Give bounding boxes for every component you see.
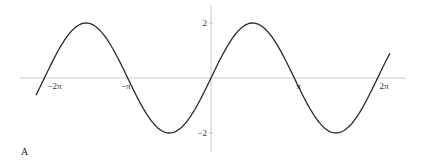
- sine-chart: −2π−ππ2π 2−2: [0, 0, 424, 160]
- x-tick-label: −2π: [47, 81, 62, 91]
- y-tick-label: −2: [197, 128, 207, 138]
- x-tick-label: 2π: [380, 81, 390, 91]
- panel-label: A: [21, 146, 28, 157]
- y-tick-label: 2: [203, 18, 208, 28]
